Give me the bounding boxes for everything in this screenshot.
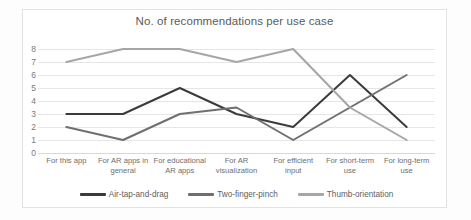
legend-label: Thumb-orientation (327, 190, 393, 199)
x-tick-label-2: For educational AR apps (151, 156, 208, 182)
x-tick-label-3: For AR visualization (208, 156, 265, 182)
chart-screenshot: No. of recommendations per use case 0123… (0, 0, 471, 220)
series-line-2 (66, 49, 406, 140)
y-tick-label-8: 8 (22, 45, 36, 54)
series-lines (38, 49, 435, 153)
chart-title: No. of recommendations per use case (22, 15, 447, 27)
legend-item-2[interactable]: Thumb-orientation (298, 190, 393, 199)
x-tick-label-1: For AR apps in general (95, 156, 152, 182)
y-axis-tick-labels: 012345678 (22, 49, 36, 153)
legend-swatch-icon (188, 193, 214, 195)
y-tick-label-3: 3 (22, 110, 36, 119)
legend-item-1[interactable]: Two-finger-pinch (188, 190, 278, 199)
legend-label: Two-finger-pinch (217, 190, 278, 199)
y-tick-label-6: 6 (22, 71, 36, 80)
x-tick-label-0: For this app (38, 156, 95, 182)
chart-legend: Air-tap-and-dragTwo-finger-pinchThumb-or… (38, 190, 435, 199)
legend-label: Air-tap-and-drag (109, 190, 169, 199)
y-tick-label-0: 0 (22, 149, 36, 158)
y-tick-label-1: 1 (22, 136, 36, 145)
legend-swatch-icon (298, 193, 324, 195)
x-tick-label-5: For short-term use (322, 156, 379, 182)
plot-area (38, 49, 435, 153)
series-line-0 (66, 75, 406, 127)
y-tick-label-7: 7 (22, 58, 36, 67)
y-tick-label-2: 2 (22, 123, 36, 132)
y-tick-label-4: 4 (22, 97, 36, 106)
x-tick-label-6: For long-term use (378, 156, 435, 182)
legend-item-0[interactable]: Air-tap-and-drag (80, 190, 169, 199)
y-tick-label-5: 5 (22, 84, 36, 93)
x-axis-category-labels: For this appFor AR apps in generalFor ed… (38, 156, 435, 182)
series-line-1 (66, 75, 406, 140)
legend-swatch-icon (80, 193, 106, 195)
x-tick-label-4: For efficient input (265, 156, 322, 182)
